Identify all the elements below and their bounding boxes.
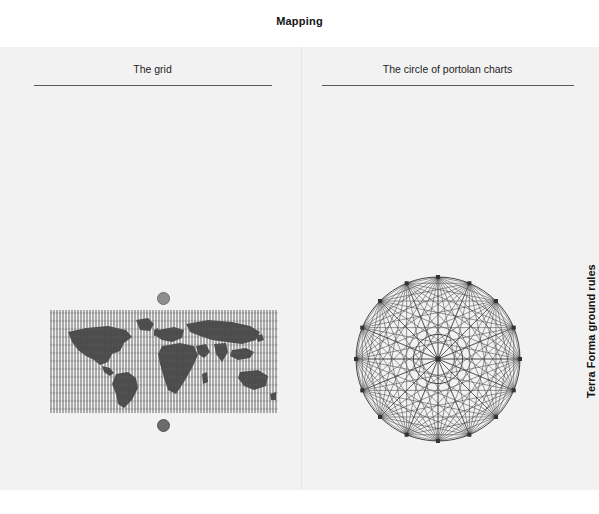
node-marker [436, 439, 440, 443]
node-marker [360, 326, 364, 330]
node-marker [436, 275, 440, 279]
node-marker [378, 415, 382, 419]
column-heading-portolan: The circle of portolan charts [305, 62, 590, 86]
side-label-right: Terra Forma ground rules [585, 264, 597, 398]
north-pole-dot [157, 292, 170, 305]
south-pole-dot [157, 419, 170, 432]
node-marker [354, 357, 358, 361]
center-point [436, 357, 441, 362]
node-marker [405, 281, 409, 285]
world-map-graticule-graphic [50, 310, 278, 413]
node-marker [405, 433, 409, 437]
column-heading-portolan-label: The circle of portolan charts [305, 62, 590, 76]
column-divider [301, 47, 302, 490]
column-heading-grid-label: The grid [10, 62, 295, 76]
figure-title: Mapping [0, 15, 599, 27]
node-marker [360, 388, 364, 392]
node-marker [467, 433, 471, 437]
node-marker [512, 388, 516, 392]
node-marker [494, 299, 498, 303]
node-marker [494, 415, 498, 419]
node-marker [467, 281, 471, 285]
column-heading-grid-rule [34, 85, 272, 86]
node-marker [518, 357, 522, 361]
column-heading-grid: The grid [10, 62, 295, 86]
column-heading-portolan-rule [322, 85, 574, 86]
node-marker [378, 299, 382, 303]
node-marker [512, 326, 516, 330]
figure-panel: The grid The circle of portolan charts [0, 47, 599, 490]
portolan-wind-rose-graphic [348, 269, 528, 449]
